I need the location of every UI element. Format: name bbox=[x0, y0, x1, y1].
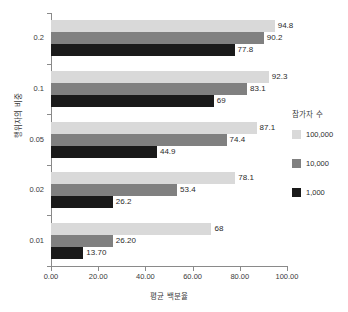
x-tick-mark bbox=[240, 267, 241, 271]
bar-chart: 행위자의 비중 0.20.10.050.020.01 0.0020.0040.0… bbox=[0, 0, 348, 312]
bar bbox=[51, 223, 211, 235]
x-tick-label: 0.00 bbox=[28, 272, 74, 281]
x-tick-label: 80.00 bbox=[217, 272, 263, 281]
bar-value-label: 90.2 bbox=[267, 32, 283, 44]
legend: 참가자 수 100,00010,0001,000 bbox=[292, 108, 348, 217]
y-tick-label: 0.01 bbox=[0, 236, 44, 245]
bar bbox=[51, 71, 269, 83]
bar bbox=[51, 83, 247, 95]
bar-value-label: 68 bbox=[214, 223, 223, 235]
bar-value-label: 92.3 bbox=[272, 71, 288, 83]
bar-value-label: 13.70 bbox=[86, 247, 106, 259]
y-tick-label: 0.1 bbox=[0, 84, 44, 93]
x-tick-mark bbox=[145, 267, 146, 271]
bar bbox=[51, 44, 235, 56]
legend-swatch-icon bbox=[292, 159, 301, 168]
bar bbox=[51, 32, 264, 44]
legend-entry[interactable]: 1,000 bbox=[292, 188, 348, 197]
bar-value-label: 87.1 bbox=[260, 122, 276, 134]
legend-swatch-icon bbox=[292, 130, 301, 139]
y-tick-label: 0.05 bbox=[0, 135, 44, 144]
bar bbox=[51, 196, 113, 208]
bar bbox=[51, 235, 113, 247]
bar bbox=[51, 122, 257, 134]
x-tick-label: 20.00 bbox=[75, 272, 121, 281]
legend-label: 10,000 bbox=[306, 159, 329, 168]
bar-value-label: 53.4 bbox=[180, 184, 196, 196]
legend-swatch-icon bbox=[292, 188, 301, 197]
y-tick-mark bbox=[47, 165, 51, 166]
bar-value-label: 26.2 bbox=[116, 196, 132, 208]
bar-value-label: 74.4 bbox=[230, 134, 246, 146]
bar bbox=[51, 184, 177, 196]
x-tick-mark bbox=[51, 267, 52, 271]
legend-entries: 100,00010,0001,000 bbox=[292, 130, 348, 197]
x-tick-mark bbox=[98, 267, 99, 271]
bar-value-label: 83.1 bbox=[250, 83, 266, 95]
legend-entry[interactable]: 10,000 bbox=[292, 159, 348, 168]
bar-value-label: 26.20 bbox=[116, 235, 136, 247]
bar bbox=[51, 134, 227, 146]
bar bbox=[51, 172, 235, 184]
legend-title: 참가자 수 bbox=[292, 108, 348, 119]
y-tick-mark bbox=[47, 64, 51, 65]
bar bbox=[51, 95, 214, 107]
legend-label: 1,000 bbox=[306, 188, 325, 197]
y-tick-label: 0.2 bbox=[0, 33, 44, 42]
x-axis-title: 평균 백분율 bbox=[51, 290, 287, 301]
bar-value-label: 78.1 bbox=[238, 172, 254, 184]
y-tick-label: 0.02 bbox=[0, 185, 44, 194]
x-tick-label: 100.00 bbox=[264, 272, 310, 281]
y-tick-mark bbox=[47, 13, 51, 14]
x-axis-line bbox=[51, 266, 288, 267]
x-tick-mark bbox=[193, 267, 194, 271]
bar-value-label: 44.9 bbox=[160, 146, 176, 158]
y-tick-mark bbox=[47, 215, 51, 216]
legend-label: 100,000 bbox=[306, 130, 333, 139]
bar-value-label: 94.8 bbox=[278, 20, 294, 32]
legend-entry[interactable]: 100,000 bbox=[292, 130, 348, 139]
x-tick-label: 60.00 bbox=[170, 272, 216, 281]
bar-value-label: 77.8 bbox=[238, 44, 254, 56]
bar bbox=[51, 247, 83, 259]
y-tick-mark bbox=[47, 114, 51, 115]
bar bbox=[51, 146, 157, 158]
bar bbox=[51, 20, 275, 32]
x-tick-label: 40.00 bbox=[122, 272, 168, 281]
x-tick-mark bbox=[287, 267, 288, 271]
bar-value-label: 69 bbox=[217, 95, 226, 107]
